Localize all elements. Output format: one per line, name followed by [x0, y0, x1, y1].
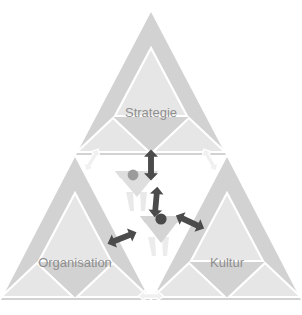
corner-label-right: Kultur — [210, 255, 245, 270]
arrow-dark-vertical-middle — [148, 186, 164, 217]
figure-lower — [140, 213, 182, 256]
corner-triangle-right[interactable]: Kultur — [152, 157, 301, 300]
triangle-diagram: Strategie Organisation Kultur — [0, 0, 302, 315]
corner-label-top: Strategie — [125, 105, 177, 120]
corner-triangle-top[interactable]: Strategie — [76, 12, 226, 155]
arrow-light-bottom-center — [139, 291, 164, 302]
diagram-canvas: Strategie Organisation Kultur — [0, 0, 302, 315]
corner-label-left: Organisation — [38, 255, 112, 270]
